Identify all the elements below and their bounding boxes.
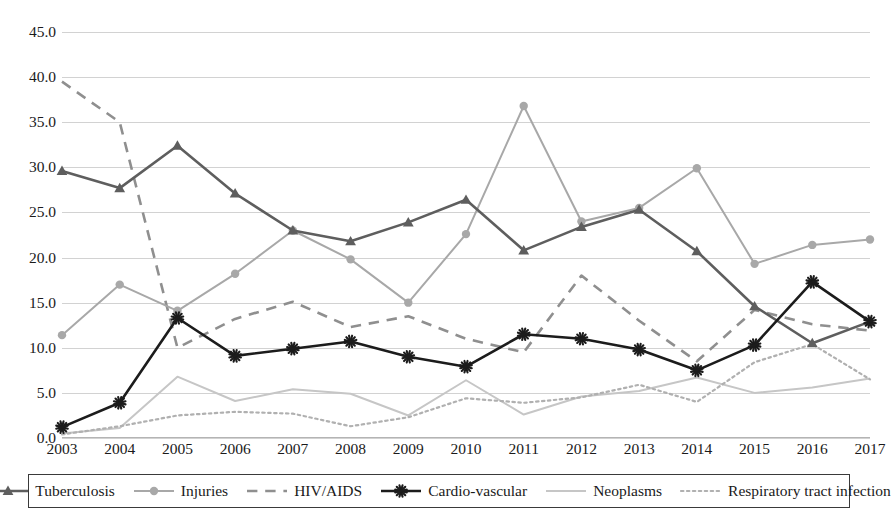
data-point-marker xyxy=(691,365,703,377)
data-point-marker xyxy=(345,336,357,348)
data-point-marker xyxy=(864,316,876,328)
x-axis-tick-label: 2004 xyxy=(104,440,135,458)
x-axis-tick-label: 2006 xyxy=(220,440,251,458)
legend-swatch-icon xyxy=(545,484,587,498)
series-plot xyxy=(62,32,870,438)
series-cardio-vascular xyxy=(56,276,876,433)
x-axis-tick-label: 2015 xyxy=(739,440,770,458)
y-axis-tick-label: 15.0 xyxy=(29,294,56,312)
data-point-marker xyxy=(231,270,239,278)
x-axis-tick-label: 2005 xyxy=(162,440,193,458)
series-line xyxy=(62,146,870,344)
legend-swatch-icon xyxy=(680,484,722,498)
data-point-marker xyxy=(116,280,124,288)
series-respiratory-tract-infection xyxy=(62,344,870,434)
x-axis-tick-label: 2008 xyxy=(335,440,366,458)
data-point-marker xyxy=(56,421,68,433)
x-axis-tick-label: 2016 xyxy=(797,440,828,458)
y-axis-tick-label: 25.0 xyxy=(29,203,56,221)
legend-item-tuberculosis[interactable]: Tuberculosis xyxy=(0,483,124,499)
legend-swatch-icon xyxy=(133,484,175,498)
x-axis-tick-label: 2017 xyxy=(855,440,886,458)
legend-item-label: Tuberculosis xyxy=(35,483,115,499)
legend-swatch-icon xyxy=(380,484,422,498)
legend-swatch-icon xyxy=(246,484,288,498)
plot-area xyxy=(62,32,870,438)
legend-item-neoplasms[interactable]: Neoplasms xyxy=(536,483,671,499)
data-point-marker xyxy=(461,194,472,203)
y-axis-tick-label: 40.0 xyxy=(29,68,56,86)
chart-legend: TuberculosisInjuriesHIV/AIDSCardio-vascu… xyxy=(28,474,850,508)
x-axis-tick-label: 2014 xyxy=(681,440,712,458)
data-point-marker xyxy=(462,230,470,238)
data-point-marker xyxy=(57,166,68,175)
data-point-marker xyxy=(866,235,874,243)
data-point-marker xyxy=(114,397,126,409)
series-neoplasms xyxy=(62,377,870,434)
data-point-marker xyxy=(404,298,412,306)
x-axis-tick-label: 2013 xyxy=(624,440,655,458)
data-point-marker xyxy=(520,102,528,110)
legend-item-label: HIV/AIDS xyxy=(294,483,362,499)
y-axis-tick-label: 30.0 xyxy=(29,158,56,176)
series-line xyxy=(62,282,870,427)
data-point-marker xyxy=(460,361,472,373)
data-point-marker xyxy=(346,255,354,263)
data-point-marker xyxy=(172,312,184,324)
x-axis-tick-label: 2012 xyxy=(566,440,597,458)
legend-item-respiratory-tract-infection[interactable]: Respiratory tract infection xyxy=(671,483,895,499)
data-point-marker xyxy=(750,260,758,268)
x-axis-tick-label: 2010 xyxy=(451,440,482,458)
legend-item-hiv-aids[interactable]: HIV/AIDS xyxy=(237,483,371,499)
y-axis-tick-label: 45.0 xyxy=(29,23,56,41)
data-point-marker xyxy=(693,164,701,172)
data-point-marker xyxy=(808,241,816,249)
x-axis: 2003200420052006200720082009201020112012… xyxy=(62,440,870,466)
legend-swatch-icon xyxy=(0,484,29,498)
gridline xyxy=(62,438,870,439)
legend-item-label: Respiratory tract infection xyxy=(728,483,891,499)
x-axis-tick-label: 2007 xyxy=(277,440,308,458)
data-point-marker xyxy=(395,485,407,497)
data-point-marker xyxy=(402,351,414,363)
legend-item-label: Neoplasms xyxy=(593,483,662,499)
y-axis-tick-label: 10.0 xyxy=(29,339,56,357)
y-axis-tick-label: 20.0 xyxy=(29,249,56,267)
x-axis-tick-label: 2003 xyxy=(47,440,78,458)
x-axis-tick-label: 2011 xyxy=(508,440,538,458)
legend-item-label: Cardio-vascular xyxy=(428,483,527,499)
y-axis: 0.05.010.015.020.025.030.035.040.045.0 xyxy=(0,32,56,438)
legend-item-injuries[interactable]: Injuries xyxy=(124,483,237,499)
x-axis-tick-label: 2009 xyxy=(393,440,424,458)
legend-item-label: Injuries xyxy=(181,483,228,499)
data-point-marker xyxy=(150,487,158,495)
series-line xyxy=(62,344,870,434)
y-axis-tick-label: 35.0 xyxy=(29,113,56,131)
y-axis-tick-label: 5.0 xyxy=(37,384,56,402)
data-point-marker xyxy=(749,339,761,351)
series-line xyxy=(62,377,870,434)
data-point-marker xyxy=(172,140,183,149)
legend-item-cardio-vascular[interactable]: Cardio-vascular xyxy=(371,483,536,499)
data-point-marker xyxy=(58,331,66,339)
data-point-marker xyxy=(806,276,818,288)
